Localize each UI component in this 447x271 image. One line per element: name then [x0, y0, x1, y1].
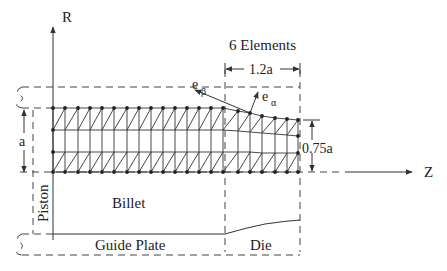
- piston-label: Piston: [35, 184, 51, 222]
- break-symbol-top: [17, 87, 23, 108]
- break-symbol-bottom: [17, 234, 23, 255]
- svg-text:a: a: [19, 134, 26, 149]
- svg-text:e: e: [192, 77, 198, 92]
- die-label: Die: [250, 237, 272, 253]
- dimension-a: a: [19, 110, 26, 172]
- die-profile: [225, 220, 300, 234]
- z-axis-label: Z: [424, 164, 433, 180]
- svg-text:e: e: [262, 89, 268, 104]
- svg-text:0.75a: 0.75a: [302, 141, 334, 156]
- svg-text:1.2a: 1.2a: [249, 62, 274, 77]
- finite-element-mesh: [51, 106, 300, 174]
- dimension-exit-radius: 0.75a: [302, 120, 334, 171]
- r-axis-label: R: [62, 9, 72, 25]
- svg-text:α: α: [271, 97, 277, 108]
- elements-count-label: 6 Elements: [229, 37, 296, 53]
- extrusion-mesh-diagram: R Z a Piston 1.2a 6 Elements: [0, 0, 447, 271]
- dimension-die-length: 1.2a 6 Elements: [225, 37, 300, 77]
- unit-vector-e-alpha: e α: [250, 89, 277, 113]
- billet-label: Billet: [112, 195, 146, 211]
- guide-plate-label: Guide Plate: [95, 237, 166, 253]
- svg-text:β: β: [201, 86, 206, 97]
